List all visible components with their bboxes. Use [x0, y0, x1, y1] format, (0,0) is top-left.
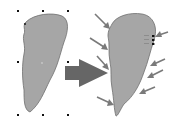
- left-shape[interactable]: [23, 14, 68, 112]
- handle-middle-right: [67, 61, 69, 63]
- right-shape[interactable]: [108, 13, 156, 116]
- handle-bottom-left: [17, 114, 19, 116]
- handle-bottom-center: [42, 114, 44, 116]
- handle-top-right: [67, 10, 69, 12]
- handle-middle-left: [17, 61, 19, 63]
- transition-arrow-icon: [65, 59, 108, 87]
- node-markers: [152, 35, 154, 45]
- handle-top-center: [42, 10, 44, 12]
- diagram-canvas: [0, 0, 184, 124]
- handle-bottom-right: [67, 114, 69, 116]
- handle-top-left: [17, 10, 19, 12]
